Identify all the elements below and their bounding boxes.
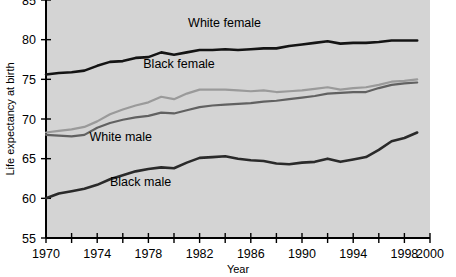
x-tick-label-1982: 1982 <box>186 247 214 261</box>
life-expectancy-line-chart: 55606570758085 1970197419781982198619901… <box>0 0 456 277</box>
y-tick-label-group: 55606570758085 <box>22 0 36 246</box>
x-axis-title: Year <box>227 263 250 275</box>
x-tick-label-1978: 1978 <box>134 247 162 261</box>
y-tick-label-75: 75 <box>22 73 36 87</box>
series-label-black-male: Black male <box>110 175 171 189</box>
series-label-white-female: White female <box>188 16 261 30</box>
y-tick-label-80: 80 <box>22 33 36 47</box>
x-tick-label-group: 197019741978198219861990199419982000 <box>32 247 444 261</box>
y-tick-label-85: 85 <box>22 0 36 8</box>
y-tick-label-60: 60 <box>22 192 36 206</box>
chart-container: 55606570758085 1970197419781982198619901… <box>0 0 456 277</box>
x-tick-label-1998: 1998 <box>390 247 418 261</box>
y-tick-label-65: 65 <box>22 152 36 166</box>
x-tick-label-1986: 1986 <box>237 247 265 261</box>
x-tick-label-1970: 1970 <box>32 247 60 261</box>
x-tick-label-1974: 1974 <box>83 247 111 261</box>
x-tick-label-2000: 2000 <box>416 247 444 261</box>
x-tick-label-1990: 1990 <box>288 247 316 261</box>
series-label-black-female: Black female <box>143 57 215 71</box>
y-axis-title: Life expectancy at birth <box>4 62 16 175</box>
series-label-white-male: White male <box>90 130 153 144</box>
y-tick-label-70: 70 <box>22 113 36 127</box>
y-tick-label-55: 55 <box>22 232 36 246</box>
x-tick-label-1994: 1994 <box>339 247 367 261</box>
